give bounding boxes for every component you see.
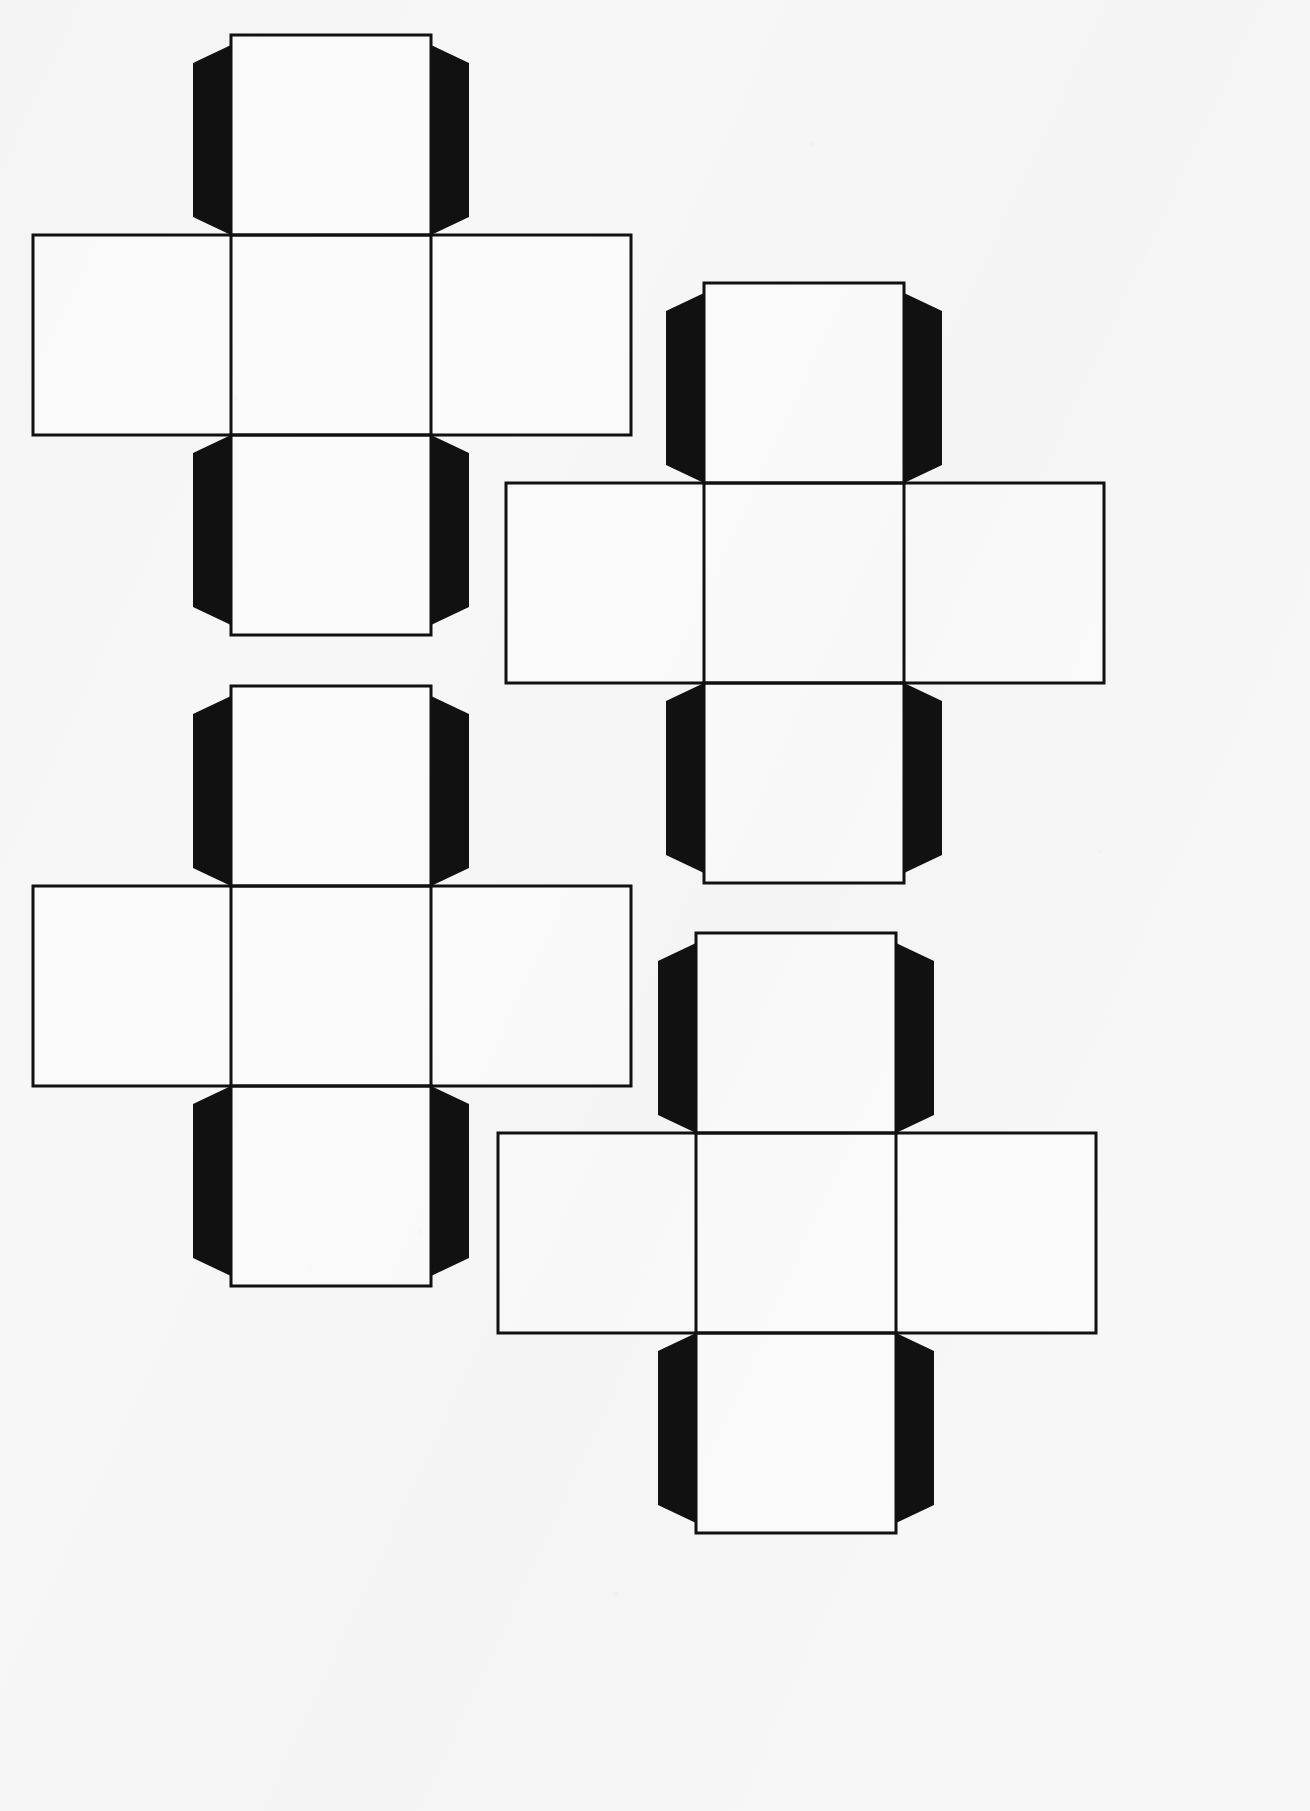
tab-top-right bbox=[431, 45, 469, 235]
tab-top-left bbox=[666, 293, 704, 483]
tab-top-right bbox=[904, 293, 942, 483]
tab-bottom-left bbox=[193, 435, 231, 625]
net-bottom-right bbox=[495, 930, 1137, 1536]
tab-bottom-left bbox=[193, 1086, 231, 1276]
tab-bottom-left bbox=[658, 1333, 696, 1523]
tab-top-left bbox=[658, 943, 696, 1133]
tab-top-left bbox=[193, 696, 231, 886]
tab-bottom-right bbox=[431, 435, 469, 625]
tab-bottom-right bbox=[896, 1333, 934, 1523]
template-sheet bbox=[0, 0, 1310, 1811]
tab-top-left bbox=[193, 45, 231, 235]
tab-bottom-right bbox=[431, 1086, 469, 1276]
tab-bottom-right bbox=[904, 683, 942, 873]
tab-top-right bbox=[431, 696, 469, 886]
tab-top-right bbox=[896, 943, 934, 1133]
